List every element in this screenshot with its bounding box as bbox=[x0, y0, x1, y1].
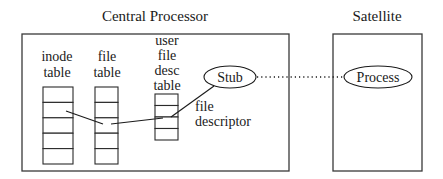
inode-table-cell-2 bbox=[43, 102, 73, 117]
file-table-cell-2 bbox=[95, 102, 118, 117]
svg-text:file: file bbox=[158, 48, 177, 63]
inode-table-cell-4 bbox=[43, 133, 73, 148]
inode-table-cell-1 bbox=[43, 87, 73, 102]
svg-text:user: user bbox=[155, 33, 179, 48]
svg-text:desc: desc bbox=[155, 63, 180, 78]
svg-text:table: table bbox=[153, 78, 180, 93]
svg-text:inode: inode bbox=[41, 49, 72, 64]
svg-text:table: table bbox=[93, 65, 120, 80]
user-fd-table-cell-2 bbox=[155, 106, 178, 118]
file-descriptor-annotation: file descriptor bbox=[195, 99, 251, 129]
file-table bbox=[95, 87, 118, 164]
inode-table-cell-3 bbox=[43, 118, 73, 133]
user-fd-table-cell-1 bbox=[155, 94, 178, 106]
central-processor-title: Central Processor bbox=[102, 8, 208, 24]
file-table-cell-1 bbox=[95, 87, 118, 102]
diagram-canvas: Central Processor Satellite inode table … bbox=[0, 0, 443, 179]
satellite-title: Satellite bbox=[352, 8, 401, 24]
file-table-cell-4 bbox=[95, 133, 118, 148]
stub-label: Stub bbox=[217, 70, 243, 85]
user-fd-table bbox=[155, 94, 178, 140]
file-table-cell-5 bbox=[95, 149, 118, 164]
svg-text:file: file bbox=[98, 49, 117, 64]
process-label: Process bbox=[357, 70, 400, 85]
satellite-box bbox=[333, 34, 422, 171]
svg-text:descriptor: descriptor bbox=[195, 114, 251, 129]
inode-table bbox=[43, 87, 73, 164]
svg-text:table: table bbox=[43, 65, 70, 80]
inode-table-label: inode table bbox=[41, 49, 72, 80]
user-fd-table-label: user file desc table bbox=[153, 33, 180, 93]
inode-table-cell-5 bbox=[43, 149, 73, 164]
file-table-label: file table bbox=[93, 49, 120, 80]
user-fd-table-cell-4 bbox=[155, 129, 178, 141]
svg-text:file: file bbox=[195, 99, 214, 114]
file-table-cell-3 bbox=[95, 118, 118, 133]
